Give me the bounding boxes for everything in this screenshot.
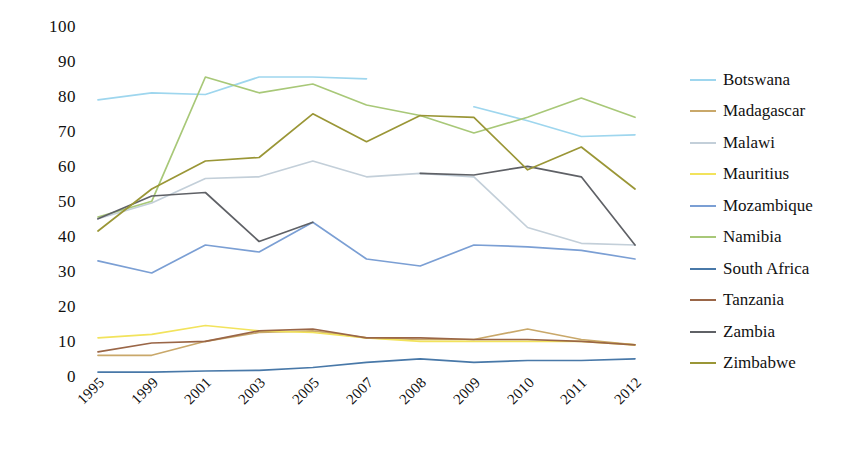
legend-item-botswana[interactable]: Botswana <box>690 64 845 96</box>
legend-item-label: South Africa <box>723 259 809 279</box>
y-axis-tick-label: 80 <box>8 87 76 107</box>
y-axis-tick-label: 10 <box>8 332 76 352</box>
legend-color-swatch <box>690 299 716 301</box>
legend-item-namibia[interactable]: Namibia <box>690 222 845 254</box>
legend-color-swatch <box>690 173 716 175</box>
legend-color-swatch <box>690 79 716 81</box>
y-axis-tick-label: 100 <box>8 17 76 37</box>
legend-color-swatch <box>690 362 716 364</box>
y-axis-tick-label: 40 <box>8 227 76 247</box>
legend-item-tanzania[interactable]: Tanzania <box>690 285 845 317</box>
series-line-mozambique <box>98 222 635 273</box>
series-line-malawi <box>98 161 635 245</box>
y-axis-tick-label: 50 <box>8 192 76 212</box>
legend-color-swatch <box>690 110 716 112</box>
chart-legend: BotswanaMadagascarMalawiMauritiusMozambi… <box>690 64 845 379</box>
legend-color-swatch <box>690 268 716 270</box>
legend-color-swatch <box>690 236 716 238</box>
legend-item-zimbabwe[interactable]: Zimbabwe <box>690 348 845 380</box>
line-chart: 0102030405060708090100 19951999200120032… <box>0 0 845 462</box>
y-axis-tick-label: 90 <box>8 52 76 72</box>
legend-item-madagascar[interactable]: Madagascar <box>690 96 845 128</box>
legend-item-south-africa[interactable]: South Africa <box>690 253 845 285</box>
legend-item-label: Zimbabwe <box>723 353 796 373</box>
legend-item-label: Namibia <box>723 227 782 247</box>
series-line-namibia <box>98 77 635 217</box>
legend-item-label: Malawi <box>723 133 775 153</box>
legend-item-label: Mauritius <box>723 164 789 184</box>
y-axis-tick-label: 0 <box>8 367 76 387</box>
legend-item-mozambique[interactable]: Mozambique <box>690 190 845 222</box>
legend-item-label: Madagascar <box>723 101 805 121</box>
series-line-south-africa <box>98 359 635 372</box>
y-axis-tick-label: 60 <box>8 157 76 177</box>
legend-item-label: Zambia <box>723 322 775 342</box>
y-axis-tick-label: 20 <box>8 297 76 317</box>
series-line-zambia <box>98 166 635 245</box>
legend-item-mauritius[interactable]: Mauritius <box>690 159 845 191</box>
legend-item-zambia[interactable]: Zambia <box>690 316 845 348</box>
y-axis-tick-label: 30 <box>8 262 76 282</box>
legend-item-malawi[interactable]: Malawi <box>690 127 845 159</box>
legend-item-label: Mozambique <box>723 196 813 216</box>
legend-item-label: Tanzania <box>723 290 784 310</box>
plot-area: 0102030405060708090100 19951999200120032… <box>0 0 680 462</box>
legend-color-swatch <box>690 142 716 144</box>
legend-item-label: Botswana <box>723 70 790 90</box>
legend-color-swatch <box>690 331 716 333</box>
y-axis-tick-label: 70 <box>8 122 76 142</box>
legend-color-swatch <box>690 205 716 207</box>
